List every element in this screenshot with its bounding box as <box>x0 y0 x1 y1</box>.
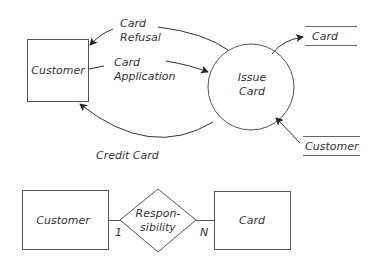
diagram-canvas: Customer Issue Card Card Customer Card R… <box>0 0 377 269</box>
data-store-customer-label: Customer <box>305 140 360 153</box>
er-relationship-line1: Respon- <box>136 207 181 220</box>
data-store-card: Card <box>305 27 357 46</box>
flow-card-application-line2: Application <box>113 70 175 83</box>
external-entity-label: Customer <box>31 64 86 77</box>
er-relationship-responsibility: Respon- sibility <box>120 189 196 252</box>
flow-card-application-line1: Card <box>114 56 141 69</box>
process-issue-card: Issue Card <box>208 44 294 130</box>
flow-card-application: Card Application <box>89 56 208 83</box>
process-label-line2: Card <box>239 85 266 98</box>
er-cardinality-one: 1 <box>115 226 122 239</box>
er-entity-customer-label: Customer <box>36 214 91 227</box>
flow-credit-card: Credit Card <box>80 104 213 162</box>
er-cardinality-many: N <box>200 226 208 239</box>
flow-card-refusal-line2: Refusal <box>120 31 161 44</box>
flow-customer-store-to-process <box>276 118 300 143</box>
external-entity-customer: Customer <box>28 40 89 102</box>
er-entity-card: Card <box>215 192 291 250</box>
data-store-customer: Customer <box>303 137 360 156</box>
flow-process-to-card-store <box>272 37 303 54</box>
data-store-card-label: Card <box>312 30 339 43</box>
flow-credit-card-label: Credit Card <box>96 149 160 162</box>
flow-card-refusal-line1: Card <box>120 17 147 30</box>
process-label-line1: Issue <box>238 71 267 84</box>
er-entity-customer: Customer <box>23 191 109 250</box>
er-relationship-line2: sibility <box>140 221 176 234</box>
er-entity-card-label: Card <box>239 214 266 227</box>
flow-card-refusal: Card Refusal <box>90 17 228 50</box>
